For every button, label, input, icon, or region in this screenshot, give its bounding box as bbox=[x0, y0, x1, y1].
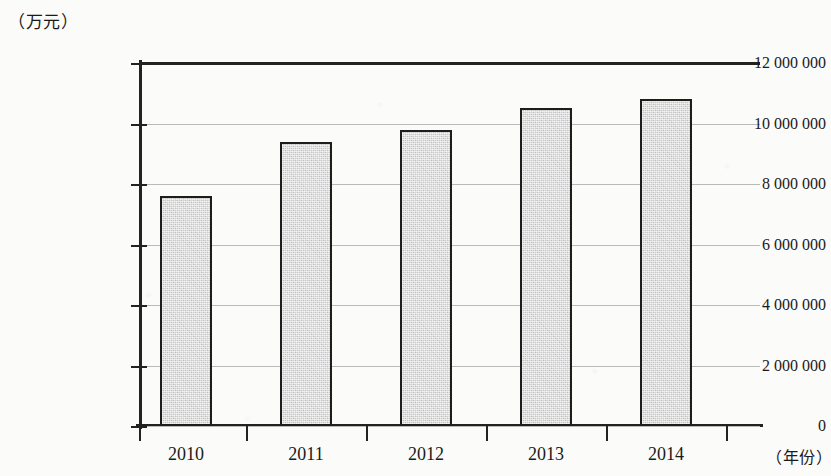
x-axis-tick-label-2014: 2014 bbox=[606, 444, 726, 464]
plot-area bbox=[139, 63, 760, 426]
y-axis-tick-mark bbox=[131, 63, 147, 65]
gridline bbox=[139, 62, 760, 65]
x-axis-tick-label-2011: 2011 bbox=[246, 444, 366, 464]
x-axis-unit-label: （年份） bbox=[766, 444, 831, 468]
y-axis-tick-label: 8 000 000 bbox=[708, 176, 826, 192]
y-axis-tick-mark bbox=[131, 305, 147, 307]
y-axis-tick-mark bbox=[131, 366, 147, 368]
y-axis-tick-label: 2 000 000 bbox=[708, 358, 826, 374]
y-axis-tick-label: 10 000 000 bbox=[708, 116, 826, 132]
y-axis-unit-label: （万元） bbox=[8, 8, 78, 33]
bar-2014 bbox=[640, 99, 692, 426]
y-axis-tick-mark bbox=[131, 124, 147, 126]
bar-2010 bbox=[160, 196, 212, 426]
x-axis-tick-label-2010: 2010 bbox=[126, 444, 246, 464]
x-axis-tick-mark bbox=[486, 426, 488, 441]
y-axis-tick-label: 6 000 000 bbox=[708, 237, 826, 253]
x-axis-tick-mark bbox=[606, 426, 608, 441]
x-axis-origin-tick-mark bbox=[139, 426, 141, 441]
gridline bbox=[139, 426, 760, 427]
x-axis-tick-label-2013: 2013 bbox=[486, 444, 606, 464]
x-axis-tick-label-2012: 2012 bbox=[366, 444, 486, 464]
x-axis-tick-mark bbox=[726, 426, 728, 441]
bar-2012 bbox=[400, 130, 452, 426]
x-axis-tick-mark bbox=[366, 426, 368, 441]
bar-2011 bbox=[280, 142, 332, 426]
y-axis-tick-label: 12 000 000 bbox=[708, 55, 826, 71]
bar-2013 bbox=[520, 108, 572, 426]
y-axis-tick-label: 4 000 000 bbox=[708, 297, 826, 313]
x-axis-tick-mark bbox=[246, 426, 248, 441]
y-axis-tick-mark bbox=[131, 245, 147, 247]
y-axis-tick-mark bbox=[131, 184, 147, 186]
